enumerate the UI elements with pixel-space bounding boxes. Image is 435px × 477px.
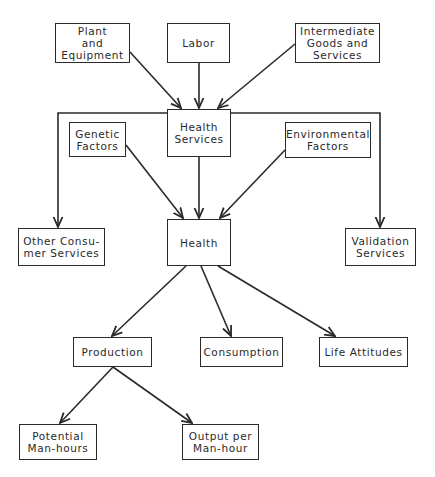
node-label: Labor [182, 37, 215, 49]
node-potential-man-hours: Potential Man-hours [19, 424, 97, 460]
node-label: Plant and Equipment [61, 25, 123, 61]
edge-production-to-output [113, 367, 192, 423]
node-environmental-factors: Environmental Factors [285, 122, 371, 158]
node-label: Output per Man-hour [189, 430, 252, 454]
node-label: Life Attitudes [324, 346, 402, 358]
edge-production-to-potential [60, 367, 113, 423]
health-flow-diagram: Plant and Equipment Labor Intermediate G… [0, 0, 435, 477]
node-plant-and-equipment: Plant and Equipment [55, 23, 130, 63]
node-health-services: Health Services [167, 109, 231, 157]
node-production: Production [73, 337, 152, 367]
node-other-consumer-services: Other Consu- mer Services [18, 228, 105, 266]
node-label: Production [82, 346, 144, 358]
node-intermediate-goods: Intermediate Goods and Services [295, 23, 380, 63]
node-output-per-man-hour: Output per Man-hour [182, 424, 259, 460]
edge-environmental-to-health [220, 150, 285, 218]
node-label: Health Services [174, 121, 223, 145]
node-health: Health [167, 219, 231, 266]
node-label: Consumption [203, 346, 279, 358]
node-genetic-factors: Genetic Factors [69, 122, 126, 157]
node-label: Health [180, 237, 218, 249]
node-label: Other Consu- mer Services [23, 235, 100, 259]
node-label: Genetic Factors [75, 128, 120, 152]
node-label: Validation Services [352, 235, 410, 259]
edge-health-to-production [112, 266, 186, 336]
node-validation-services: Validation Services [345, 228, 416, 266]
edge-health-to-life-attitudes [218, 266, 335, 336]
node-labor: Labor [167, 23, 230, 63]
node-consumption: Consumption [200, 337, 283, 367]
edge-health-to-consumption [201, 266, 231, 336]
node-label: Potential Man-hours [28, 430, 89, 454]
node-label: Intermediate Goods and Services [300, 25, 375, 61]
node-life-attitudes: Life Attitudes [319, 337, 408, 367]
node-label: Environmental Factors [286, 128, 370, 152]
